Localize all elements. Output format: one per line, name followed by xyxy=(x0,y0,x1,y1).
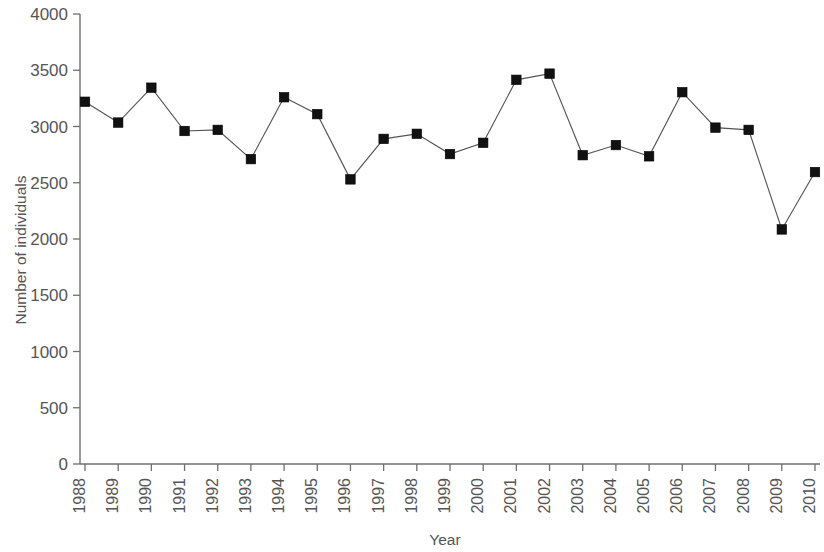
data-point-marker xyxy=(611,140,621,150)
data-point-marker xyxy=(744,125,754,135)
x-axis-tick-label: 2006 xyxy=(668,478,685,514)
data-point-marker xyxy=(113,118,123,128)
x-axis-tick-label: 1998 xyxy=(403,478,420,514)
y-axis-tick-label: 0 xyxy=(59,455,68,474)
x-axis-ticks xyxy=(85,464,815,471)
x-axis-tick-label: 1993 xyxy=(237,478,254,514)
x-axis-tick-label: 1988 xyxy=(71,478,88,514)
y-axis-tick-label: 2500 xyxy=(30,174,68,193)
data-point-marker xyxy=(279,93,289,103)
x-axis-tick-label: 1991 xyxy=(171,478,188,514)
data-point-marker xyxy=(711,123,721,133)
y-axis-tick-label: 1000 xyxy=(30,343,68,362)
x-axis-tick-label: 1990 xyxy=(137,478,154,514)
y-axis-ticks xyxy=(73,14,80,464)
data-point-marker xyxy=(180,126,190,136)
data-point-marker xyxy=(346,175,356,185)
data-point-marker xyxy=(678,87,688,97)
x-axis-tick-label: 1996 xyxy=(336,478,353,514)
y-axis-tick-label: 3500 xyxy=(30,61,68,80)
data-point-marker xyxy=(213,125,223,135)
x-axis-tick-label: 2010 xyxy=(801,478,818,514)
data-point-marker xyxy=(478,138,488,148)
x-axis-tick-label: 2004 xyxy=(602,478,619,514)
x-axis-tick-label: 1994 xyxy=(270,478,287,514)
y-axis-tick-labels: 05001000150020002500300035004000 xyxy=(30,5,68,474)
y-axis-tick-label: 500 xyxy=(40,399,68,418)
data-point-marker xyxy=(810,167,820,177)
x-axis-tick-label: 2002 xyxy=(536,478,553,514)
data-point-marker xyxy=(313,109,323,119)
y-axis: 05001000150020002500300035004000 xyxy=(30,5,80,474)
data-point-markers xyxy=(80,69,820,234)
x-axis-tick-label: 2005 xyxy=(635,478,652,514)
data-point-marker xyxy=(80,97,90,107)
x-axis-tick-label: 2003 xyxy=(569,478,586,514)
data-point-marker xyxy=(545,69,555,79)
x-axis: 1988198919901991199219931994199519961997… xyxy=(71,464,820,514)
x-axis-tick-label: 1992 xyxy=(204,478,221,514)
x-axis-tick-label: 1999 xyxy=(436,478,453,514)
data-point-marker xyxy=(777,225,787,235)
x-axis-tick-label: 1995 xyxy=(303,478,320,514)
x-axis-tick-label: 2001 xyxy=(502,478,519,514)
plot-area xyxy=(80,69,820,234)
y-axis-tick-label: 2000 xyxy=(30,230,68,249)
data-point-marker xyxy=(445,149,455,159)
y-axis-tick-label: 1500 xyxy=(30,286,68,305)
data-point-marker xyxy=(246,154,256,164)
y-axis-tick-label: 3000 xyxy=(30,118,68,137)
y-axis-tick-label: 4000 xyxy=(30,5,68,24)
data-point-marker xyxy=(578,150,588,160)
x-axis-label: Year xyxy=(429,531,460,548)
x-axis-tick-label: 2008 xyxy=(735,478,752,514)
y-axis-label: Number of individuals xyxy=(12,175,29,324)
x-axis-tick-label: 2007 xyxy=(701,478,718,514)
data-point-marker xyxy=(644,152,654,162)
x-axis-tick-label: 1989 xyxy=(104,478,121,514)
data-point-marker xyxy=(147,83,157,93)
data-point-marker xyxy=(412,129,422,139)
data-point-marker xyxy=(379,134,389,144)
x-axis-tick-label: 2000 xyxy=(469,478,486,514)
x-axis-tick-labels: 1988198919901991199219931994199519961997… xyxy=(71,478,818,514)
x-axis-tick-label: 1997 xyxy=(370,478,387,514)
x-axis-tick-label: 2009 xyxy=(768,478,785,514)
chart-container: 05001000150020002500300035004000 1988198… xyxy=(0,0,824,552)
line-chart: 05001000150020002500300035004000 1988198… xyxy=(0,0,824,552)
data-point-marker xyxy=(512,75,522,85)
